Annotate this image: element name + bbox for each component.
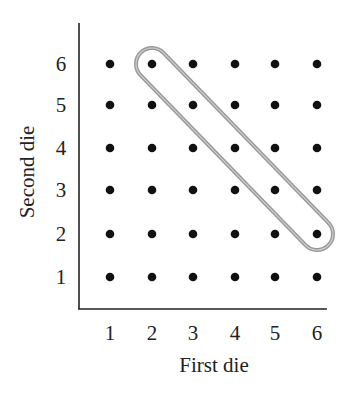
x-tick-label: 3 (188, 321, 199, 345)
y-tick-label: 6 (56, 52, 67, 76)
data-point (106, 101, 115, 110)
data-point (148, 60, 157, 69)
data-point (271, 101, 280, 110)
data-point (189, 101, 198, 110)
data-point (106, 60, 115, 69)
data-point (106, 186, 115, 195)
data-point (313, 186, 322, 195)
data-point (313, 144, 322, 153)
data-point (271, 273, 280, 282)
data-point (313, 273, 322, 282)
outcome-points (106, 60, 322, 282)
data-point (231, 144, 240, 153)
data-point (148, 101, 157, 110)
x-tick-label: 5 (270, 321, 281, 345)
data-point (189, 273, 198, 282)
data-point (313, 60, 322, 69)
data-point (271, 60, 280, 69)
data-point (231, 60, 240, 69)
data-point (271, 144, 280, 153)
data-point (313, 230, 322, 239)
y-tick-label: 2 (56, 222, 67, 246)
data-point (106, 144, 115, 153)
x-tick-label: 2 (147, 321, 158, 345)
x-tick-label: 6 (312, 321, 323, 345)
x-axis-label: First die (179, 353, 248, 377)
data-point (231, 273, 240, 282)
data-point (106, 230, 115, 239)
x-tick-label: 4 (230, 321, 241, 345)
data-point (271, 230, 280, 239)
data-point (189, 144, 198, 153)
data-point (231, 101, 240, 110)
x-tick-labels: 123456 (105, 321, 323, 345)
y-axis-label: Second die (15, 126, 39, 219)
data-point (106, 273, 115, 282)
y-tick-label: 1 (56, 265, 67, 289)
x-tick-label: 1 (105, 321, 116, 345)
y-tick-label: 5 (56, 93, 67, 117)
data-point (189, 230, 198, 239)
y-tick-labels: 123456 (56, 52, 67, 289)
y-tick-label: 3 (56, 178, 67, 202)
data-point (189, 60, 198, 69)
data-point (313, 101, 322, 110)
data-point (148, 273, 157, 282)
data-point (231, 230, 240, 239)
data-point (148, 230, 157, 239)
data-point (189, 186, 198, 195)
data-point (231, 186, 240, 195)
data-point (148, 186, 157, 195)
dice-outcome-chart: 123456 123456 First die Second die (0, 0, 351, 397)
y-tick-label: 4 (56, 136, 67, 160)
data-point (271, 186, 280, 195)
data-point (148, 144, 157, 153)
